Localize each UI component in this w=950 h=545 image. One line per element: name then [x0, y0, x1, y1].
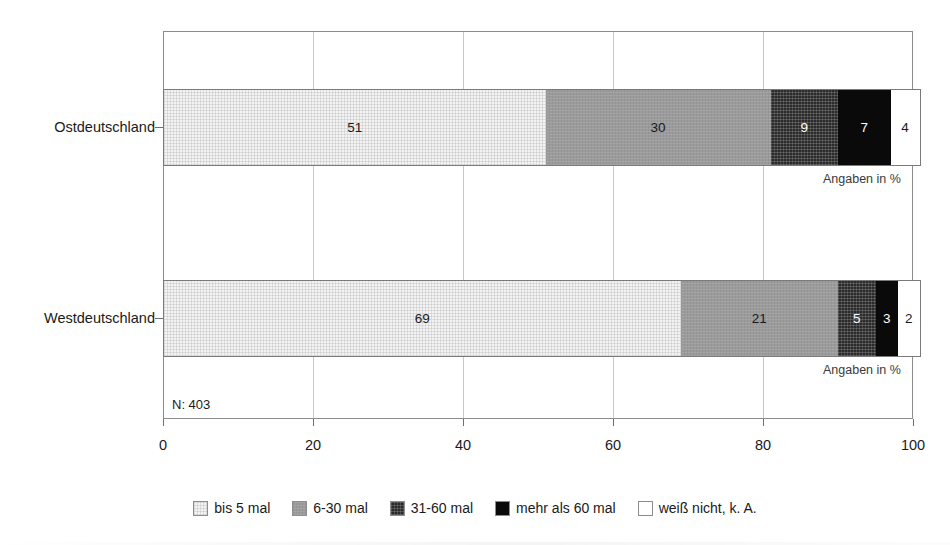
legend-label-31-60-mal: 31-60 mal: [411, 500, 473, 516]
legend-label-6-30-mal: 6-30 mal: [313, 500, 367, 516]
bar-segment-west-weiss-nicht[interactable]: 2: [898, 280, 921, 357]
bar-value-west-bis5: 69: [415, 312, 430, 326]
category-label-ostdeutschland: Ostdeutschland: [0, 119, 155, 135]
xtick-mark-100: [913, 419, 914, 426]
legend-swatch-mehr-als-60-mal: [495, 501, 510, 516]
ytick-ostdeutschland: [155, 127, 163, 128]
bar-segment-ost-bis5[interactable]: 51: [163, 89, 546, 166]
bar-value-ost-mehr60: 7: [860, 121, 868, 135]
category-label-westdeutschland: Westdeutschland: [0, 310, 155, 326]
bar-segment-ost-weiss-nicht[interactable]: 4: [891, 89, 921, 166]
xtick-mark-20: [313, 419, 314, 426]
legend-item-6-30-mal[interactable]: 6-30 mal: [292, 500, 367, 516]
bar-value-west-weiss-nicht: 2: [905, 312, 913, 326]
legend-swatch-6-30-mal: [292, 501, 307, 516]
bar-value-ost-31-60: 9: [800, 121, 808, 135]
xtick-mark-0: [163, 419, 164, 426]
bar-segment-ost-6-30[interactable]: 30: [546, 89, 771, 166]
legend-swatch-bis-5-mal: [193, 501, 208, 516]
bar-value-ost-weiss-nicht: 4: [901, 121, 909, 135]
legend-item-mehr-als-60-mal[interactable]: mehr als 60 mal: [495, 500, 616, 516]
chart-legend: bis 5 mal 6-30 mal 31-60 mal mehr als 60…: [0, 500, 950, 516]
legend-item-31-60-mal[interactable]: 31-60 mal: [390, 500, 473, 516]
legend-item-bis-5-mal[interactable]: bis 5 mal: [193, 500, 270, 516]
bar-value-ost-6-30: 30: [650, 121, 665, 135]
xtick-label-0: 0: [159, 437, 167, 453]
bar-segment-west-31-60[interactable]: 5: [838, 280, 876, 357]
stacked-bar-chart: Ostdeutschland Westdeutschland 51 30 9 7…: [0, 0, 950, 545]
bar-segment-west-bis5[interactable]: 69: [163, 280, 681, 357]
bar-segment-ost-mehr60[interactable]: 7: [838, 89, 891, 166]
ytick-westdeutschland: [155, 318, 163, 319]
bar-segment-ost-31-60[interactable]: 9: [771, 89, 839, 166]
sample-size-note: N: 403: [172, 397, 210, 412]
legend-label-mehr-als-60-mal: mehr als 60 mal: [516, 500, 616, 516]
xtick-label-40: 40: [455, 437, 471, 453]
bar-value-ost-bis5: 51: [347, 121, 362, 135]
bar-segment-west-mehr60[interactable]: 3: [876, 280, 899, 357]
xtick-label-100: 100: [901, 437, 925, 453]
xtick-mark-60: [613, 419, 614, 426]
bar-value-west-31-60: 5: [853, 312, 861, 326]
bar-segment-west-6-30[interactable]: 21: [681, 280, 839, 357]
note-angaben-west: Angaben in %: [823, 363, 901, 377]
legend-item-weiss-nicht[interactable]: weiß nicht, k. A.: [638, 500, 757, 516]
xtick-mark-40: [463, 419, 464, 426]
bar-value-west-mehr60: 3: [883, 312, 891, 326]
legend-label-bis-5-mal: bis 5 mal: [214, 500, 270, 516]
xtick-label-60: 60: [605, 437, 621, 453]
note-angaben-ost: Angaben in %: [823, 172, 901, 186]
bar-value-west-6-30: 21: [752, 312, 767, 326]
legend-label-weiss-nicht: weiß nicht, k. A.: [659, 500, 757, 516]
xtick-label-20: 20: [305, 437, 321, 453]
legend-swatch-31-60-mal: [390, 501, 405, 516]
xtick-label-80: 80: [755, 437, 771, 453]
xtick-mark-80: [763, 419, 764, 426]
legend-swatch-weiss-nicht: [638, 501, 653, 516]
